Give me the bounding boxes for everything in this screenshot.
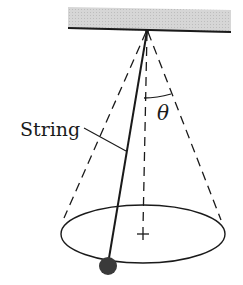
pendulum-bob — [99, 257, 117, 275]
diagram-canvas — [0, 0, 243, 285]
string-leader-line — [84, 128, 126, 151]
angle-theta-label: θ — [157, 101, 169, 125]
conical-pendulum-diagram: String θ — [0, 0, 243, 285]
angle-arc — [144, 94, 171, 98]
ceiling-support — [68, 7, 231, 33]
string-label: String — [20, 118, 80, 140]
center-cross-icon — [137, 228, 149, 240]
vertical-axis — [143, 32, 147, 228]
pivot-point — [145, 29, 149, 33]
cone-right-side — [148, 32, 221, 220]
